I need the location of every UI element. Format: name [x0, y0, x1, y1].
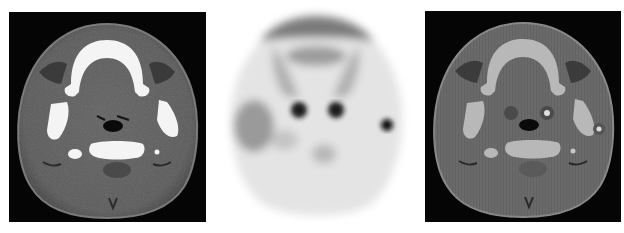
ct-axial-slice	[9, 12, 206, 222]
pet-axial-slice	[214, 6, 419, 226]
fused-image-panel: PET/CT fusion	[425, 11, 621, 222]
airway	[519, 119, 539, 131]
fused-axial-slice	[425, 11, 621, 222]
spinal-canal	[103, 162, 131, 178]
vertebra	[89, 141, 145, 160]
pet-hotspot-right	[328, 102, 344, 118]
vertebra	[505, 140, 561, 159]
spinal-canal	[519, 161, 547, 177]
pet-hotspot-left	[291, 102, 307, 118]
airway	[103, 120, 123, 132]
fused-uptake-left	[504, 106, 518, 120]
pet-hotspot-lateral	[381, 119, 393, 131]
ct-image-panel: CT	[9, 12, 206, 222]
pet-image-panel: PET	[214, 6, 419, 226]
